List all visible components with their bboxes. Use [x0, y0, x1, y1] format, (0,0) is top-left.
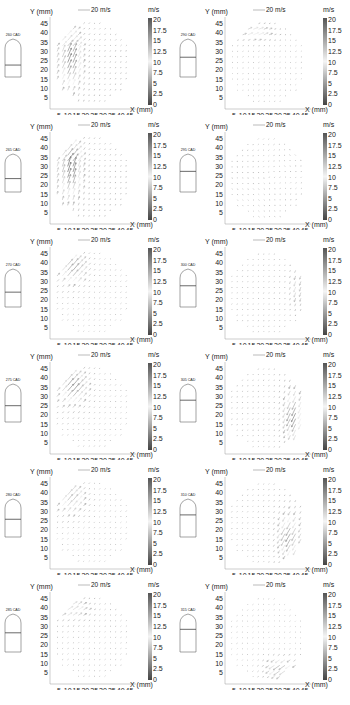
x-tick-label: 30: [274, 687, 282, 690]
velocity-vector: [68, 149, 73, 156]
piston-diagram: [5, 384, 21, 422]
velocity-vector: [285, 374, 286, 375]
velocity-vector: [110, 632, 111, 633]
velocity-vector: [268, 545, 269, 546]
velocity-vector: [73, 418, 74, 419]
colorbar-tick-label: 7.5: [153, 184, 163, 191]
velocity-vector: [94, 314, 95, 315]
velocity-vector: [290, 270, 291, 271]
velocity-vector: [274, 139, 275, 140]
velocity-vector: [78, 93, 79, 96]
y-tick-label: 40: [40, 29, 48, 36]
y-tick-label: 45: [215, 20, 223, 27]
velocity-vector: [121, 303, 122, 304]
velocity-vector: [253, 523, 254, 524]
velocity-vector: [94, 446, 95, 447]
velocity-vector: [73, 626, 74, 627]
velocity-vector: [99, 396, 100, 397]
colorbar-tick-label: 0: [328, 676, 332, 683]
velocity-vector: [110, 407, 111, 408]
y-tick-label: 10: [40, 85, 48, 92]
velocity-vector: [62, 626, 63, 627]
velocity-vector: [89, 297, 90, 298]
velocity-vector: [115, 286, 116, 287]
piston-diagram: [5, 269, 21, 307]
y-tick-label: 45: [40, 365, 48, 372]
velocity-vector: [126, 511, 127, 512]
velocity-vector: [300, 654, 301, 655]
colorbar-tick-label: 12.5: [328, 48, 342, 55]
velocity-vector: [99, 604, 100, 605]
colorbar-unit: m/s: [148, 581, 160, 588]
velocity-vector: [89, 72, 90, 74]
velocity-vector: [94, 160, 95, 161]
velocity-vector: [78, 491, 82, 495]
velocity-vector: [110, 78, 111, 79]
velocity-vector: [94, 303, 95, 304]
velocity-vector: [94, 100, 95, 101]
velocity-vector: [99, 505, 100, 506]
velocity-vector: [57, 418, 58, 419]
y-tick-label: 30: [215, 393, 223, 400]
velocity-vector: [105, 34, 106, 35]
colorbar-tick-label: 0: [328, 216, 332, 223]
velocity-vector: [68, 533, 69, 534]
velocity-vector: [105, 390, 106, 391]
velocity-vector: [289, 276, 290, 278]
colorbar-tick-label: 15: [153, 497, 161, 504]
velocity-vector: [121, 385, 122, 386]
colorbar-tick-label: 5: [328, 655, 332, 662]
velocity-vector: [73, 208, 74, 211]
velocity-vector: [73, 140, 76, 144]
velocity-vector: [99, 193, 100, 194]
velocity-vector: [99, 516, 100, 517]
scale-arrow-label: 20 m/s: [91, 121, 111, 128]
piston-diagram: [180, 269, 196, 307]
velocity-vector: [121, 160, 122, 161]
velocity-vector: [57, 516, 58, 517]
velocity-vector: [57, 285, 58, 287]
y-tick-label: 5: [219, 669, 223, 676]
velocity-vector: [258, 155, 259, 156]
velocity-vector: [115, 516, 116, 517]
x-tick-label: 45: [301, 687, 309, 690]
y-tick-label: 5: [219, 209, 223, 216]
y-tick-label: 10: [40, 315, 48, 322]
vector-plot: 275 CADY (mm)X (mm)454035302520151055101…: [0, 345, 175, 460]
velocity-vector: [115, 533, 116, 534]
y-tick-label: 30: [215, 163, 223, 170]
velocity-vector: [121, 620, 122, 621]
velocity-vector: [84, 33, 86, 35]
y-tick-label: 5: [44, 94, 48, 101]
velocity-vector: [89, 643, 90, 644]
piston-diagram: [180, 154, 196, 192]
velocity-vector: [57, 291, 58, 292]
velocity-vector: [282, 523, 285, 529]
colorbar: [148, 133, 152, 220]
y-tick-label: 30: [215, 48, 223, 55]
y-tick-label: 25: [215, 402, 223, 409]
cylinder-outline: [180, 154, 196, 192]
velocity-vector: [281, 660, 285, 663]
colorbar-tick-label: 0: [328, 561, 332, 568]
velocity-vector: [99, 528, 100, 529]
velocity-vector: [78, 620, 80, 621]
velocity-vector: [84, 147, 86, 149]
vector-field: [232, 369, 301, 448]
velocity-vector: [94, 550, 95, 551]
velocity-vector: [290, 495, 291, 496]
velocity-vector: [99, 325, 100, 326]
velocity-vector: [94, 34, 95, 35]
velocity-vector: [78, 515, 79, 517]
velocity-vector: [258, 676, 259, 677]
y-axis-label: Y (mm): [30, 353, 53, 361]
colorbar-tick-label: 17.5: [328, 487, 342, 494]
colorbar-tick-label: 5: [328, 425, 332, 432]
velocity-vector: [89, 561, 90, 562]
velocity-vector: [105, 489, 106, 490]
velocity-vector: [84, 516, 85, 517]
velocity-vector: [253, 506, 254, 507]
y-tick-label: 10: [40, 545, 48, 552]
velocity-vector: [99, 286, 100, 287]
colorbar-tick-label: 15: [328, 267, 336, 274]
